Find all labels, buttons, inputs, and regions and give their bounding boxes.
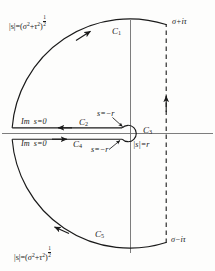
contour-arc-c1	[12, 19, 166, 128]
contour-arc-c5	[12, 140, 166, 249]
label-branch-point-upper: s=−r	[97, 110, 114, 118]
c4-index: 4	[79, 143, 82, 149]
label-c5: C5	[95, 230, 104, 239]
half-exponent-bottom: 12	[48, 246, 51, 257]
c2-index: 2	[85, 121, 88, 127]
im-value-lower: s=0	[34, 139, 47, 148]
im-text-upper: Im	[21, 117, 30, 126]
label-small-circle-radius: |s|=r	[133, 141, 149, 149]
leader-branch-point-upper	[113, 118, 123, 127]
label-branch-point-lower: s=−r	[91, 146, 108, 154]
modulus-label-top: |s|=(σ2+τ2)12	[9, 16, 46, 31]
half-denominator-bottom: 2	[48, 253, 51, 258]
label-corner-top-right: σ+iτ	[172, 18, 187, 26]
c3-index: 3	[149, 129, 152, 135]
label-im-zero-lower: Im s=0	[21, 140, 47, 148]
label-c4: C4	[73, 140, 82, 149]
c5-index: 5	[101, 233, 104, 239]
label-c1: C1	[112, 27, 121, 36]
half-exponent-top: 12	[43, 15, 46, 26]
label-c3: C3	[143, 126, 152, 135]
modulus-label-bottom: |s|=(σ2+τ2)12	[14, 247, 51, 262]
im-value-upper: s=0	[34, 117, 47, 126]
label-corner-bottom-right: σ−iτ	[171, 236, 186, 244]
half-denominator-top: 2	[43, 22, 46, 27]
leader-branch-point-lower	[109, 141, 120, 150]
label-im-zero-upper: Im s=0	[21, 118, 47, 126]
c1-index: 1	[118, 30, 121, 36]
bromwich-contour-figure: |s|=(σ2+τ2)12 C1 σ+iτ Im s=0 C2 s=−r C3 …	[0, 0, 215, 271]
label-c2: C2	[79, 118, 88, 127]
contour-drawing	[0, 0, 215, 271]
im-text-lower: Im	[21, 139, 30, 148]
contour-arrow-c1	[76, 31, 91, 40]
